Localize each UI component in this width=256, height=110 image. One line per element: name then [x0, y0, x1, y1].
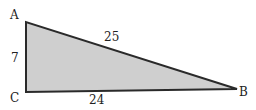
side-label-ac: 7: [11, 51, 19, 65]
vertex-label-c: C: [10, 91, 19, 105]
triangle-diagram: A C B 7 25 24: [0, 0, 256, 110]
side-label-cb: 24: [89, 93, 105, 107]
vertex-label-a: A: [9, 8, 19, 22]
vertex-label-b: B: [239, 85, 248, 99]
triangle-ABC: [26, 22, 237, 92]
side-label-ab: 25: [104, 30, 119, 44]
